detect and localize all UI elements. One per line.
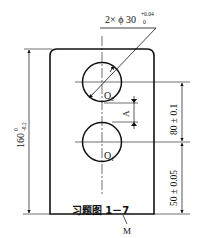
bottom-offset-label: 50 ± 0.05 (169, 170, 179, 206)
height-dim-label: 160 0 -0.2 (13, 122, 27, 148)
hole-spec-upper-tol: +0.04 (141, 11, 154, 17)
svg-text:-0.2: -0.2 (21, 122, 27, 131)
dim-a-label: A (121, 110, 131, 117)
svg-text:160: 160 (15, 133, 26, 148)
lower-center-sub: 1 (111, 156, 114, 162)
surface-m-label: M (123, 226, 131, 236)
svg-text:0: 0 (13, 128, 19, 131)
figure-caption: 习题图 1－7 (0, 202, 201, 217)
hole-spec-label: 2× ϕ 30 (105, 14, 136, 25)
hole-spec-lower-tol: 0 (143, 19, 146, 25)
center-spacing-label: 80 ± 0.1 (169, 103, 179, 135)
upper-center-sub: 2 (111, 96, 114, 102)
hole-diameter-arrow (110, 66, 114, 72)
